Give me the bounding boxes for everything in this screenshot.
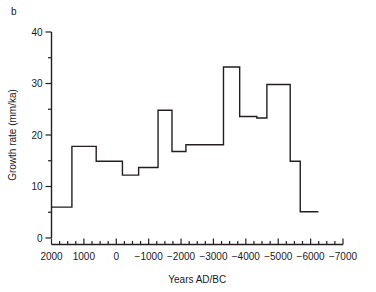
x-tick-label-0: 0 xyxy=(113,251,119,262)
x-tick-label-2000: 2000 xyxy=(40,251,63,262)
x-tick-label--6000: −6000 xyxy=(297,251,326,262)
growth-rate-step-chart: 010203040 200010000−1000−2000−3000−4000−… xyxy=(0,0,376,292)
x-tick-label--4000: −4000 xyxy=(232,251,261,262)
growth-rate-step-line xyxy=(52,67,319,212)
x-tick-label--3000: −3000 xyxy=(199,251,228,262)
y-tick-label-30: 30 xyxy=(31,78,43,89)
x-tick-label--2000: −2000 xyxy=(167,251,196,262)
data-series-growth-rate xyxy=(52,67,319,212)
y-axis-title: Growth rate (mm/ka) xyxy=(7,89,18,181)
x-tick-label--5000: −5000 xyxy=(264,251,293,262)
y-tick-label-0: 0 xyxy=(37,233,43,244)
x-tick-label--1000: −1000 xyxy=(135,251,164,262)
y-tick-label-40: 40 xyxy=(31,27,43,38)
y-axis: 010203040 xyxy=(31,27,51,244)
x-tick-label-1000: 1000 xyxy=(73,251,96,262)
x-axis: 200010000−1000−2000−3000−4000−5000−6000−… xyxy=(40,239,357,263)
y-tick-label-20: 20 xyxy=(31,130,43,141)
y-tick-label-10: 10 xyxy=(31,181,43,192)
figure-panel-b: b 010203040 200010000−1000−2000−3000−400… xyxy=(0,0,376,292)
x-axis-title: Years AD/BC xyxy=(168,274,226,285)
x-tick-label--7000: −7000 xyxy=(329,251,358,262)
